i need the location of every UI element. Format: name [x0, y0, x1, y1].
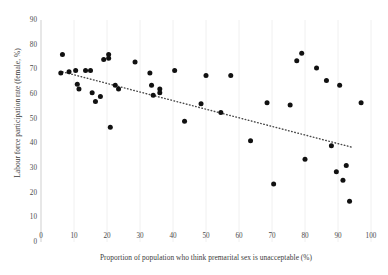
data-point	[288, 103, 293, 108]
data-point	[218, 110, 223, 115]
data-point	[60, 52, 65, 57]
data-point	[299, 51, 304, 56]
data-point	[204, 73, 209, 78]
x-tick-label: 60	[229, 232, 249, 240]
data-point	[58, 71, 63, 76]
scatter-chart-figure: Labour force participation rate (female,…	[0, 0, 388, 275]
x-tick-label: 10	[64, 232, 84, 240]
data-point	[90, 90, 95, 95]
data-point	[76, 87, 81, 92]
data-point	[248, 138, 253, 143]
data-point	[334, 169, 339, 174]
x-tick-label: 70	[262, 232, 282, 240]
data-point	[337, 83, 342, 88]
data-point	[347, 199, 352, 204]
trend-line	[62, 72, 351, 147]
data-point	[151, 93, 156, 98]
y-tick-label: 10	[21, 213, 37, 221]
data-point	[265, 100, 270, 105]
x-axis-tick-labels: 0102030405060708090100	[41, 232, 371, 244]
y-tick-label: 90	[21, 16, 37, 24]
x-tick-label: 90	[328, 232, 348, 240]
plot-svg	[41, 20, 371, 242]
x-tick-label: 0	[31, 232, 51, 240]
x-tick-label: 30	[130, 232, 150, 240]
data-point	[106, 56, 111, 61]
y-tick-label: 20	[21, 189, 37, 197]
y-tick-label: 80	[21, 41, 37, 49]
x-tick-label: 40	[163, 232, 183, 240]
data-point	[314, 66, 319, 71]
data-point	[329, 143, 334, 148]
y-axis-tick-labels: 0102030405060708090	[21, 20, 37, 242]
data-point	[324, 78, 329, 83]
data-point	[172, 68, 177, 73]
y-tick-label: 30	[21, 164, 37, 172]
plot-area	[41, 20, 371, 242]
y-tick-label: 60	[21, 90, 37, 98]
data-point	[157, 90, 162, 95]
x-tick-label: 20	[97, 232, 117, 240]
data-point	[271, 182, 276, 187]
data-point	[359, 100, 364, 105]
data-point	[93, 99, 98, 104]
data-point	[303, 157, 308, 162]
data-point	[67, 69, 72, 74]
data-point	[147, 71, 152, 76]
data-point	[101, 57, 106, 62]
data-point	[116, 87, 121, 92]
x-tick-label: 100	[361, 232, 381, 240]
data-point	[133, 59, 138, 64]
data-point	[228, 73, 233, 78]
y-tick-label: 70	[21, 65, 37, 73]
data-point	[83, 68, 88, 73]
data-point	[294, 58, 299, 63]
data-point	[75, 82, 80, 87]
data-point	[88, 68, 93, 73]
data-point	[340, 178, 345, 183]
data-point	[149, 83, 154, 88]
data-point	[98, 94, 103, 99]
x-tick-label: 50	[196, 232, 216, 240]
data-point	[199, 101, 204, 106]
data-point	[182, 119, 187, 124]
y-tick-label: 50	[21, 115, 37, 123]
y-tick-label: 40	[21, 139, 37, 147]
data-point	[73, 68, 78, 73]
data-point	[344, 163, 349, 168]
x-tick-label: 80	[295, 232, 315, 240]
x-axis-title: Proportion of population who think prema…	[41, 253, 371, 262]
data-point	[108, 125, 113, 130]
